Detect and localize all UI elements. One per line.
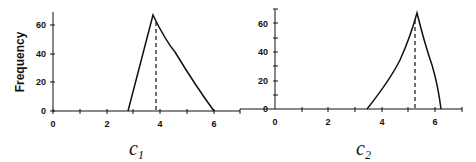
x-tick-label: 2 [104,119,109,129]
x-tick-label: 0 [50,119,55,129]
x-axis-label: c2 [356,137,371,162]
x-tick-label: 0 [272,117,277,127]
x-tick-label: 6 [432,117,437,127]
y-tick-label: 20 [258,76,268,86]
x-tick-label: 6 [211,119,216,129]
chart-c2: 0 2 4 6 0 20 40 60 c2 [240,9,462,162]
x-tick-label: 4 [379,117,384,127]
y-tick-label: 60 [36,20,46,30]
y-tick-label: 40 [36,49,46,59]
chart-c1: 0 2 4 6 0 20 40 60 Frequency c1 [13,12,240,162]
x-tick-label: 4 [157,119,162,129]
y-tick-label: 0 [41,106,46,116]
charts: 0 2 4 6 0 20 40 60 Frequency c1 0 2 4 6 [0,0,476,162]
distribution-curve [128,15,214,111]
distribution-curve [367,13,441,109]
y-tick-label: 0 [263,104,268,114]
y-tick-label: 20 [36,77,46,87]
y-tick-label: 60 [258,19,268,29]
y-tick-label: 40 [258,47,268,57]
x-tick-label: 2 [325,117,330,127]
x-axis-label: c1 [129,137,144,162]
y-axis-label: Frequency [13,31,27,92]
